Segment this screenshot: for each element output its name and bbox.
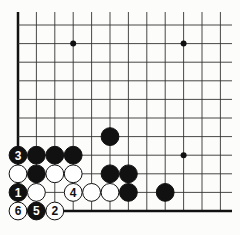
white-stone — [83, 184, 101, 202]
black-stone — [28, 165, 46, 183]
star-point — [70, 41, 76, 47]
go-board: 314652 — [0, 0, 240, 235]
white-stone — [64, 165, 82, 183]
black-stone — [119, 184, 137, 202]
white-stone — [28, 184, 46, 202]
move-number: 3 — [15, 149, 22, 163]
black-stone — [101, 165, 119, 183]
black-stone — [101, 128, 119, 146]
star-point — [181, 152, 187, 158]
move-number: 6 — [15, 204, 22, 218]
black-stone — [46, 146, 64, 164]
black-stone — [119, 165, 137, 183]
black-stone — [156, 184, 174, 202]
white-stone — [46, 165, 64, 183]
move-number: 5 — [33, 204, 40, 218]
move-number: 4 — [70, 186, 77, 200]
white-stone — [101, 184, 119, 202]
star-point — [181, 41, 187, 47]
black-stone — [28, 146, 46, 164]
black-stone — [64, 146, 82, 164]
white-stone — [9, 165, 27, 183]
move-number: 1 — [15, 186, 22, 200]
move-number: 2 — [51, 204, 58, 218]
